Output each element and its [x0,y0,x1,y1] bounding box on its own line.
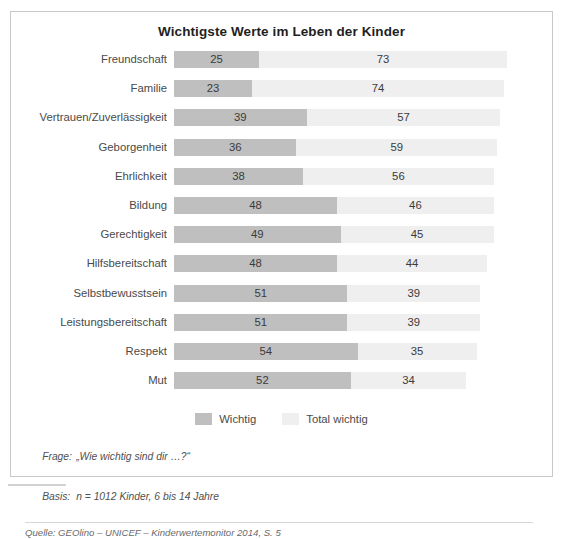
bar-track: 3659 [174,139,514,156]
bar-row-label: Bildung [11,197,167,214]
bar-row-label: Freundschaft [11,51,167,68]
scan-artifact-mark [8,484,66,486]
bar-segment-wichtig: 39 [174,109,307,126]
bar-segment-wichtig: 51 [174,285,347,302]
bar-segment-total-wichtig: 59 [296,139,497,156]
bar-row: Familie2374 [11,80,552,97]
bar-segment-total-wichtig: 35 [358,343,477,360]
bar-row: Respekt5435 [11,343,552,360]
bar-row: Freundschaft2573 [11,51,552,68]
bar-track: 4945 [174,226,514,243]
bar-track: 2573 [174,51,514,68]
legend-item: Wichtig [195,413,256,425]
bar-row-label: Respekt [11,343,167,360]
bar-segment-wichtig: 49 [174,226,341,243]
legend-swatch-light [282,413,299,425]
bar-track: 3856 [174,168,514,185]
bar-row-label: Familie [11,80,167,97]
footnote-basis: Basis:n = 1012 Kinder, 6 bis 14 Jahre [25,477,535,518]
bar-track: 5139 [174,285,514,302]
bar-row: Leistungsbereitschaft5139 [11,314,552,331]
bar-row: Ehrlichkeit3856 [11,168,552,185]
bar-row-label: Ehrlichkeit [11,168,167,185]
bar-row-label: Leistungsbereitschaft [11,314,167,331]
legend-item: Total wichtig [282,413,368,425]
footnote-basis-text: n = 1012 Kinder, 6 bis 14 Jahre [76,491,219,502]
bar-segment-total-wichtig: 74 [252,80,504,97]
bar-row: Geborgenheit3659 [11,139,552,156]
bar-segment-wichtig: 36 [174,139,296,156]
bar-track: 4844 [174,255,514,272]
bar-segment-total-wichtig: 73 [259,51,507,68]
bar-row-label: Geborgenheit [11,139,167,156]
chart-legend: WichtigTotal wichtig [11,410,552,428]
bar-track: 5435 [174,343,514,360]
footnote-basis-label: Basis: [42,490,76,504]
bar-track: 5234 [174,372,514,389]
bar-track: 4846 [174,197,514,214]
bar-rows-container: Freundschaft2573Familie2374Vertrauen/Zuv… [11,51,552,403]
bar-segment-total-wichtig: 39 [347,314,480,331]
bar-segment-wichtig: 51 [174,314,347,331]
bar-segment-wichtig: 48 [174,255,337,272]
bar-segment-wichtig: 54 [174,343,358,360]
bar-row-label: Vertrauen/Zuverlässigkeit [11,109,167,126]
bar-row: Hilfsbereitschaft4844 [11,255,552,272]
bar-segment-wichtig: 48 [174,197,337,214]
bar-segment-total-wichtig: 34 [351,372,467,389]
bar-row-label: Selbstbewusstsein [11,285,167,302]
bar-row-label: Hilfsbereitschaft [11,255,167,272]
bar-row-label: Mut [11,372,167,389]
bar-segment-wichtig: 38 [174,168,303,185]
footnote-divider [25,522,533,523]
legend-label: Wichtig [219,413,256,425]
bar-segment-total-wichtig: 56 [303,168,493,185]
bar-segment-total-wichtig: 39 [347,285,480,302]
bar-row: Bildung4846 [11,197,552,214]
footnote-question: Frage:„Wie wichtig sind dir …?“ [25,436,535,477]
bar-row: Vertrauen/Zuverlässigkeit3957 [11,109,552,126]
bar-row: Mut5234 [11,372,552,389]
bar-track: 3957 [174,109,514,126]
bar-segment-total-wichtig: 44 [337,255,487,272]
chart-title: Wichtigste Werte im Leben der Kinder [11,24,552,39]
source-note: Quelle: GEOlino – UNICEF – Kinderwertemo… [25,527,535,539]
bar-segment-wichtig: 52 [174,372,351,389]
bar-track: 5139 [174,314,514,331]
chart-panel: Wichtigste Werte im Leben der Kinder Fre… [10,11,553,477]
footnotes-block: Frage:„Wie wichtig sind dir …?“ Basis:n … [25,436,535,539]
bar-row: Gerechtigkeit4945 [11,226,552,243]
bar-segment-total-wichtig: 46 [337,197,493,214]
footnote-question-label: Frage: [42,450,76,464]
footnote-question-text: „Wie wichtig sind dir …?“ [76,451,190,462]
bar-row: Selbstbewusstsein5139 [11,285,552,302]
bar-segment-wichtig: 23 [174,80,252,97]
bar-track: 2374 [174,80,514,97]
bar-segment-wichtig: 25 [174,51,259,68]
legend-label: Total wichtig [306,413,368,425]
legend-swatch-dark [195,413,212,425]
bar-segment-total-wichtig: 45 [341,226,494,243]
bar-row-label: Gerechtigkeit [11,226,167,243]
bar-segment-total-wichtig: 57 [307,109,501,126]
